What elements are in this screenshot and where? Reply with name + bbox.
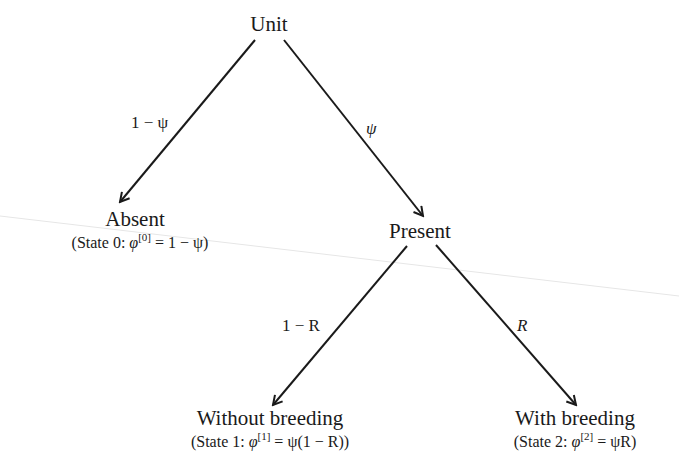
state-0-formula: (State 0: φ[0] = 1 − ψ) <box>10 232 270 251</box>
node-unit: Unit <box>229 14 309 35</box>
state-1-formula: (State 1: φ[1] = ψ(1 − R)) <box>140 431 400 450</box>
edge-label-absent: 1 − ψ <box>131 114 168 131</box>
node-present: Present <box>370 221 470 242</box>
edge-unit-present <box>284 40 423 216</box>
edge-label-without: 1 − R <box>282 317 320 334</box>
edge-label-with: R <box>517 317 527 334</box>
state-2-formula: (State 2: φ[2] = ψR) <box>470 431 679 450</box>
edge-label-present: ψ <box>366 120 377 137</box>
node-without-breeding: Without breeding <box>160 408 380 429</box>
edge-present-with <box>436 245 576 405</box>
node-absent: Absent <box>60 209 210 230</box>
node-with-breeding: With breeding <box>480 408 670 429</box>
